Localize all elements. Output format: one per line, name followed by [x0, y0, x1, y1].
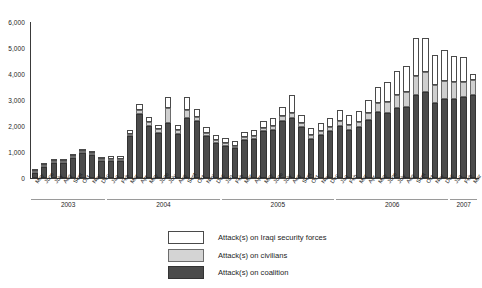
- bar-column: [297, 22, 307, 178]
- bar-segment-civilians: [165, 108, 171, 124]
- bar-stack: [270, 118, 276, 178]
- bar-segment-coalition: [279, 121, 285, 178]
- year-band: 2004: [106, 199, 220, 213]
- bar-segment-coalition: [194, 121, 200, 178]
- bar-segment-isf: [413, 38, 419, 76]
- bar-segment-isf: [432, 55, 438, 85]
- bar-segment-isf: [394, 71, 400, 94]
- bar-column: [316, 22, 326, 178]
- bar-segment-isf: [346, 115, 352, 125]
- bar-column: [402, 22, 412, 178]
- year-label: 2003: [61, 201, 75, 208]
- bar-stack: [127, 130, 133, 178]
- bar-segment-civilians: [413, 76, 419, 95]
- bar-stack: [422, 38, 428, 178]
- bar-segment-coalition: [175, 134, 181, 178]
- bar-segment-coalition: [337, 126, 343, 178]
- legend-label-isf: Attack(s) on Iraqi security forces: [218, 233, 326, 242]
- bar-column: [373, 22, 383, 178]
- bar-segment-civilians: [432, 85, 438, 103]
- bar-column: [173, 22, 183, 178]
- year-band: 2005: [221, 199, 335, 213]
- bar-segment-isf: [298, 115, 304, 123]
- bar-column: [383, 22, 393, 178]
- bar-column: [125, 22, 135, 178]
- bar-column: [59, 22, 69, 178]
- bar-column: [278, 22, 288, 178]
- bar-segment-coalition: [451, 99, 457, 178]
- bar-column: [40, 22, 50, 178]
- bar-segment-isf: [441, 50, 447, 81]
- bar-segment-coalition: [346, 130, 352, 178]
- bar-column: [287, 22, 297, 178]
- bar-segment-isf: [403, 66, 409, 92]
- bar-column: [87, 22, 97, 178]
- bar-segment-coalition: [460, 97, 466, 178]
- bar-segment-civilians: [451, 82, 457, 99]
- year-band-rule: [450, 199, 477, 200]
- y-axis-tick-label: 0: [21, 175, 30, 182]
- bar-column: [78, 22, 88, 178]
- bar-column: [30, 22, 40, 178]
- bar-segment-civilians: [184, 110, 190, 119]
- bar-column: [135, 22, 145, 178]
- bar-column: [411, 22, 421, 178]
- bar-segment-coalition: [127, 136, 133, 178]
- bar-segment-isf: [384, 82, 390, 102]
- bar-segment-civilians: [365, 113, 371, 120]
- bar-stack: [365, 100, 371, 178]
- bar-column: [325, 22, 335, 178]
- legend-item-isf: Attack(s) on Iraqi security forces: [168, 231, 408, 244]
- bar-segment-civilians: [441, 81, 447, 99]
- bar-stack: [175, 125, 181, 178]
- year-band-rule: [222, 199, 334, 200]
- bar-segment-coalition: [298, 127, 304, 178]
- bar-stack: [232, 141, 238, 178]
- year-band: 2003: [30, 199, 106, 213]
- bar-stack: [203, 127, 209, 178]
- bar-segment-coalition: [403, 107, 409, 179]
- year-band-rule: [107, 199, 219, 200]
- year-band: 2006: [335, 199, 449, 213]
- bar-segment-coalition: [165, 123, 171, 178]
- y-axis-tick-label: 1,000: [8, 149, 30, 156]
- year-label: 2007: [456, 201, 470, 208]
- bar-segment-isf: [194, 109, 200, 117]
- legend-swatch-isf-icon: [168, 231, 204, 244]
- bar-column: [183, 22, 193, 178]
- bar-column: [68, 22, 78, 178]
- bar-segment-coalition: [384, 113, 390, 178]
- bar-stack: [441, 50, 447, 178]
- year-label: 2006: [385, 201, 399, 208]
- bar-segment-isf: [279, 107, 285, 116]
- bar-segment-coalition: [375, 112, 381, 178]
- bar-column: [306, 22, 316, 178]
- bar-stack: [470, 74, 476, 178]
- y-axis-tick-label: 6,000: [8, 19, 30, 26]
- bar-stack: [413, 38, 419, 178]
- bar-stack: [279, 107, 285, 178]
- bar-column: [240, 22, 250, 178]
- legend-label-coalition: Attack(s) on coalition: [218, 268, 288, 277]
- bar-column: [154, 22, 164, 178]
- bar-segment-civilians: [375, 103, 381, 112]
- bar-stack: [298, 115, 304, 178]
- legend-item-coalition: Attack(s) on coalition: [168, 266, 408, 279]
- bar-segment-isf: [270, 118, 276, 126]
- bar-segment-coalition: [327, 131, 333, 178]
- attacks-in-iraq-stacked-bar-chart: 01,0002,0003,0004,0005,0006,000 MayJuneJ…: [0, 0, 482, 288]
- bar-stack: [260, 121, 266, 178]
- bar-column: [230, 22, 240, 178]
- bar-segment-coalition: [136, 114, 142, 178]
- bar-segment-civilians: [384, 102, 390, 113]
- bar-stack: [308, 128, 314, 178]
- bar-stack: [394, 71, 400, 178]
- bar-column: [335, 22, 345, 178]
- bar-column: [49, 22, 59, 178]
- year-label: 2005: [271, 201, 285, 208]
- bar-stack: [136, 104, 142, 178]
- bar-column: [163, 22, 173, 178]
- bar-segment-civilians: [394, 95, 400, 108]
- bar-column: [459, 22, 469, 178]
- legend-label-civilians: Attack(s) on civilians: [218, 251, 287, 260]
